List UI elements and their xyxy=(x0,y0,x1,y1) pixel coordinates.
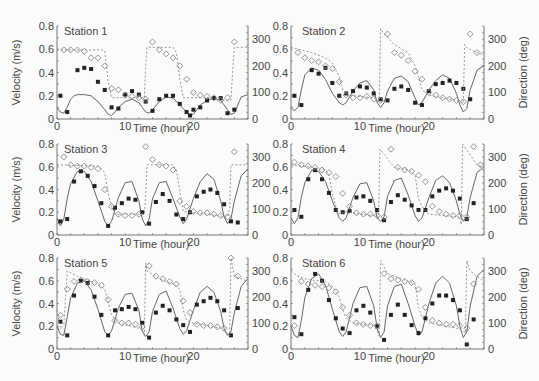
x-axis-label: Time (hour) xyxy=(368,122,424,134)
observed-velocity-marker xyxy=(334,316,338,320)
observed-velocity-marker xyxy=(437,294,441,298)
observed-velocity-marker xyxy=(106,224,110,228)
observed-direction-marker xyxy=(81,48,87,54)
observed-velocity-marker xyxy=(368,311,372,315)
y-right-tick: 300 xyxy=(488,33,506,45)
observed-velocity-marker xyxy=(320,177,324,181)
x-tick: 10 xyxy=(119,236,131,248)
panel-station-2: 00.20.40.60.8010020030001020Time (hour)D… xyxy=(273,20,529,134)
observed-direction-marker xyxy=(402,278,408,284)
observed-velocity-marker xyxy=(472,201,476,205)
observed-velocity-marker xyxy=(229,219,233,223)
modeled-direction-line xyxy=(57,47,248,100)
observed-velocity-marker xyxy=(93,184,97,188)
observed-velocity-marker xyxy=(361,194,365,198)
observed-velocity-marker xyxy=(417,208,421,212)
observed-velocity-marker xyxy=(472,317,476,321)
observed-direction-marker xyxy=(467,31,473,37)
observed-direction-marker xyxy=(190,89,196,95)
y-left-tick: 0.2 xyxy=(39,320,54,332)
x-tick: 10 xyxy=(354,120,366,132)
y-left-tick: 0.4 xyxy=(39,298,54,310)
observed-velocity-marker xyxy=(313,272,317,276)
x-axis-label: Time (hour) xyxy=(368,238,424,250)
observed-velocity-marker xyxy=(361,304,365,308)
observed-direction-marker xyxy=(129,213,135,219)
y-right-tick: 100 xyxy=(488,317,506,329)
observed-direction-marker xyxy=(395,164,401,170)
y-right-tick: 200 xyxy=(488,177,506,189)
observed-direction-marker xyxy=(298,162,304,168)
observed-direction-marker xyxy=(336,79,342,85)
x-tick: 10 xyxy=(119,350,131,362)
station-title: Station 3 xyxy=(64,143,107,155)
y-left-tick: 0.6 xyxy=(39,275,54,287)
observed-velocity-marker xyxy=(65,333,69,337)
observed-velocity-marker xyxy=(72,294,76,298)
observed-direction-marker xyxy=(218,213,224,219)
observed-direction-marker xyxy=(316,59,322,65)
observed-velocity-marker xyxy=(130,89,134,93)
observed-direction-marker xyxy=(291,323,297,329)
y-right-tick: 100 xyxy=(488,86,506,98)
y-left-axis-label: Velocity (m/s) xyxy=(10,156,22,222)
observed-velocity-marker xyxy=(396,303,400,307)
observed-direction-marker xyxy=(214,324,220,330)
observed-velocity-marker xyxy=(151,109,155,113)
observed-velocity-marker xyxy=(164,94,168,98)
y-left-tick: 0.8 xyxy=(273,20,288,32)
x-tick: 10 xyxy=(119,120,131,132)
y-left-tick: 0.8 xyxy=(39,20,54,32)
observed-velocity-marker xyxy=(458,308,462,312)
y-left-tick: 0.6 xyxy=(273,275,288,287)
observed-velocity-marker xyxy=(348,331,352,335)
y-right-tick: 200 xyxy=(488,291,506,303)
y-left-tick: 0.6 xyxy=(273,43,288,55)
y-left-tick: 0.8 xyxy=(39,252,54,264)
observed-velocity-marker xyxy=(386,98,390,102)
observed-velocity-marker xyxy=(215,191,219,195)
observed-direction-marker xyxy=(364,93,370,99)
observed-velocity-marker xyxy=(86,174,90,178)
observed-velocity-marker xyxy=(188,114,192,118)
observed-velocity-marker xyxy=(354,308,358,312)
observed-velocity-marker xyxy=(399,84,403,88)
observed-direction-marker xyxy=(197,92,203,98)
observed-velocity-marker xyxy=(181,323,185,327)
observed-direction-marker xyxy=(340,190,346,196)
y-left-tick: 0.4 xyxy=(273,298,288,310)
observed-velocity-marker xyxy=(310,68,314,72)
y-right-tick: 0 xyxy=(252,343,258,355)
observed-velocity-marker xyxy=(403,198,407,202)
observed-velocity-marker xyxy=(208,188,212,192)
observed-direction-marker xyxy=(422,179,428,185)
observed-velocity-marker xyxy=(106,333,110,337)
observed-direction-marker xyxy=(88,164,94,170)
x-axis-label: Time (hour) xyxy=(368,352,424,364)
station-title: Station 4 xyxy=(302,143,345,155)
observed-velocity-marker xyxy=(299,215,303,219)
y-right-tick: 300 xyxy=(252,33,270,45)
observed-velocity-marker xyxy=(341,210,345,214)
observed-direction-marker xyxy=(92,280,98,286)
observed-velocity-marker xyxy=(103,88,107,92)
observed-velocity-marker xyxy=(226,111,230,115)
y-right-tick: 200 xyxy=(488,60,506,72)
observed-direction-marker xyxy=(340,304,346,310)
observed-direction-marker xyxy=(115,87,121,93)
observed-velocity-marker xyxy=(430,302,434,306)
observed-velocity-marker xyxy=(82,66,86,70)
y-right-tick: 300 xyxy=(488,265,506,277)
observed-direction-marker xyxy=(398,52,404,58)
observed-direction-marker xyxy=(231,39,237,45)
observed-velocity-marker xyxy=(161,304,165,308)
y-right-tick: 200 xyxy=(252,177,270,189)
observed-velocity-marker xyxy=(154,200,158,204)
observed-direction-marker xyxy=(478,162,484,168)
observed-velocity-marker xyxy=(154,311,158,315)
observed-velocity-marker xyxy=(185,110,189,114)
observed-direction-marker xyxy=(143,144,149,150)
observed-velocity-marker xyxy=(306,177,310,181)
observed-direction-marker xyxy=(184,203,190,209)
station-velocity-direction-figure: 00.20.40.60.8010020030001020Time (hour)V… xyxy=(0,0,539,381)
